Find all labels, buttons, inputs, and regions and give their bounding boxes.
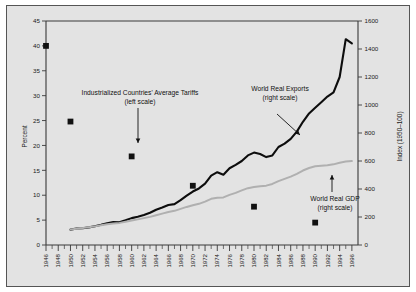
y-axis-right-tick-label: 800 bbox=[365, 129, 376, 136]
y-axis-left-tick-label: 30 bbox=[33, 92, 40, 99]
y-axis-right-tick-label: 600 bbox=[365, 157, 376, 164]
y-axis-left-tick-label: 40 bbox=[33, 42, 40, 49]
series-line-world-real-exports bbox=[70, 39, 351, 229]
annotation-arrow-gdp bbox=[330, 175, 335, 192]
x-axis-tick-label: 1958 bbox=[116, 253, 123, 267]
y-axis-right-tick-label: 1600 bbox=[365, 17, 379, 24]
y-axis-left-tick-label: 45 bbox=[33, 17, 40, 24]
chart-svg: 0510152025303540450200400600800100012001… bbox=[0, 0, 416, 292]
x-axis-tick-label: 1970 bbox=[189, 253, 196, 267]
x-axis-tick-label: 1964 bbox=[152, 253, 159, 267]
y-axis-right-tick-label: 1000 bbox=[365, 101, 379, 108]
y-axis-left-tick-label: 20 bbox=[33, 142, 40, 149]
series-marker-tariffs bbox=[68, 119, 74, 125]
y-axis-left-tick-label: 15 bbox=[33, 167, 40, 174]
y-axis-right-tick-label: 1200 bbox=[365, 73, 379, 80]
x-axis-tick-label: 1976 bbox=[226, 253, 233, 267]
x-axis-tick-label: 1974 bbox=[213, 253, 220, 267]
series-marker-tariffs bbox=[43, 43, 49, 49]
x-axis-tick-label: 1956 bbox=[103, 253, 110, 267]
x-axis-tick-label: 1948 bbox=[54, 253, 61, 267]
plot-area: 0510152025303540450200400600800100012001… bbox=[0, 0, 416, 292]
x-axis-tick-label: 1962 bbox=[140, 253, 147, 267]
x-axis-tick-label: 1950 bbox=[67, 253, 74, 267]
y-axis-right-tick-label: 200 bbox=[365, 213, 376, 220]
x-axis-tick-label: 1978 bbox=[238, 253, 245, 267]
x-axis-tick-label: 1990 bbox=[311, 253, 318, 267]
y-axis-right-tick-label: 400 bbox=[365, 185, 376, 192]
x-axis-tick-label: 1996 bbox=[348, 253, 355, 267]
series-marker-tariffs bbox=[251, 204, 257, 210]
x-axis-tick-label: 1946 bbox=[42, 253, 49, 267]
y-axis-left-tick-label: 5 bbox=[37, 216, 41, 223]
y-axis-right-tick-label: 0 bbox=[365, 241, 369, 248]
x-axis-tick-label: 1952 bbox=[79, 253, 86, 267]
x-axis-tick-label: 1992 bbox=[324, 253, 331, 267]
x-axis-tick-label: 1954 bbox=[91, 253, 98, 267]
x-axis-tick-label: 1980 bbox=[250, 253, 257, 267]
x-axis-tick-label: 1966 bbox=[165, 253, 172, 267]
y-axis-right-tick-label: 1400 bbox=[365, 45, 379, 52]
y-axis-left-tick-label: 0 bbox=[37, 241, 41, 248]
x-axis-tick-label: 1988 bbox=[299, 253, 306, 267]
y-axis-left-tick-label: 10 bbox=[33, 191, 40, 198]
x-axis-tick-label: 1986 bbox=[287, 253, 294, 267]
series-marker-tariffs bbox=[129, 154, 135, 160]
series-marker-tariffs bbox=[190, 183, 196, 189]
x-axis-tick-label: 1972 bbox=[201, 253, 208, 267]
x-axis-tick-label: 1960 bbox=[128, 253, 135, 267]
x-axis-tick-label: 1994 bbox=[336, 253, 343, 267]
figure-container: 0510152025303540450200400600800100012001… bbox=[0, 0, 416, 292]
annotation-arrow-tariffs bbox=[136, 108, 141, 143]
x-axis-tick-label: 1984 bbox=[275, 253, 282, 267]
x-axis-tick-label: 1968 bbox=[177, 253, 184, 267]
series-line-world-real-gdp bbox=[70, 161, 351, 230]
y-axis-left-tick-label: 35 bbox=[33, 67, 40, 74]
chart-data-layer bbox=[43, 39, 352, 229]
series-marker-tariffs bbox=[312, 220, 318, 226]
x-axis-tick-label: 1982 bbox=[262, 253, 269, 267]
y-axis-left-tick-label: 25 bbox=[33, 117, 40, 124]
chart-axes-layer: 0510152025303540450200400600800100012001… bbox=[33, 17, 379, 267]
annotation-arrow-exports bbox=[277, 114, 300, 135]
